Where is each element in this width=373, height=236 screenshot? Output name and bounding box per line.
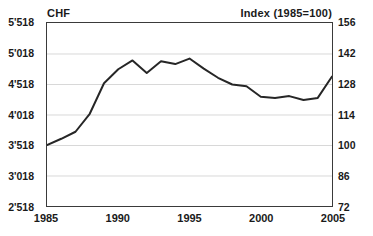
y-tick-right: 100 xyxy=(338,140,356,151)
y-tick-left: 5'018 xyxy=(8,48,34,59)
y-tick-right: 128 xyxy=(338,79,356,90)
y-tick-right: 86 xyxy=(338,171,350,182)
y-tick-left: 3'018 xyxy=(8,171,34,182)
plot-area xyxy=(46,22,333,207)
x-tick: 1990 xyxy=(106,212,130,224)
y-tick-left: 3'518 xyxy=(8,140,34,151)
chart-container: CHF Index (1985=100) 2'5183'0183'5184'01… xyxy=(0,0,373,236)
x-tick: 2000 xyxy=(249,212,273,224)
y-tick-right: 156 xyxy=(338,17,356,28)
x-tick: 1985 xyxy=(34,212,58,224)
y-tick-right: 114 xyxy=(338,110,355,121)
x-tick: 2005 xyxy=(321,212,345,224)
y-tick-right: 72 xyxy=(338,202,350,213)
y-tick-left: 4'018 xyxy=(8,110,34,121)
left-axis-title: CHF xyxy=(47,7,70,19)
y-tick-left: 4'518 xyxy=(8,79,34,90)
y-tick-right: 142 xyxy=(338,48,356,59)
x-tick: 1995 xyxy=(177,212,201,224)
series-line-chf xyxy=(47,23,332,206)
right-axis-title: Index (1985=100) xyxy=(240,7,332,19)
y-tick-left: 2'518 xyxy=(8,202,34,213)
y-tick-left: 5'518 xyxy=(8,17,34,28)
